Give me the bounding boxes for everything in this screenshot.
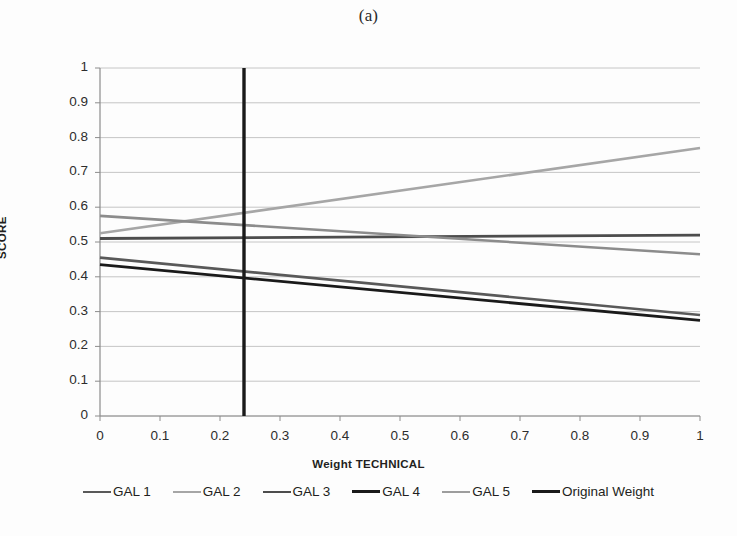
y-axis-title: SCORE bbox=[0, 216, 8, 259]
x-tick-label-0.2: 0.2 bbox=[200, 428, 240, 443]
y-tick-label-0: 0 bbox=[48, 407, 88, 422]
y-tick-label-0.9: 0.9 bbox=[48, 94, 88, 109]
x-tick-label-0.7: 0.7 bbox=[500, 428, 540, 443]
legend-item-gal-2[interactable]: GAL 2 bbox=[173, 484, 241, 499]
y-tick-label-0.6: 0.6 bbox=[48, 198, 88, 213]
y-tick-label-0.7: 0.7 bbox=[48, 163, 88, 178]
y-tick-label-0.3: 0.3 bbox=[48, 303, 88, 318]
legend-swatch-icon bbox=[532, 490, 560, 493]
legend-label: GAL 3 bbox=[293, 484, 331, 499]
line-chart: 00.10.20.30.40.50.60.70.80.91 00.10.20.3… bbox=[0, 44, 737, 484]
x-tick-marks bbox=[100, 416, 700, 421]
legend-item-gal-3[interactable]: GAL 3 bbox=[263, 484, 331, 499]
legend-swatch-icon bbox=[442, 491, 470, 493]
legend-swatch-icon bbox=[263, 491, 291, 493]
y-tick-marks bbox=[95, 68, 100, 416]
gridlines bbox=[100, 68, 700, 416]
y-tick-label-0.5: 0.5 bbox=[48, 233, 88, 248]
series-line-gal-1 bbox=[100, 258, 700, 315]
x-tick-label-0.5: 0.5 bbox=[380, 428, 420, 443]
x-tick-label-0.3: 0.3 bbox=[260, 428, 300, 443]
x-axis-title: Weight TECHNICAL bbox=[0, 458, 737, 470]
legend-label: GAL 5 bbox=[472, 484, 510, 499]
legend-item-gal-4[interactable]: GAL 4 bbox=[352, 484, 420, 499]
figure-caption: (a) bbox=[0, 6, 737, 26]
legend-item-original-weight[interactable]: Original Weight bbox=[532, 484, 654, 499]
x-tick-label-1: 1 bbox=[680, 428, 720, 443]
x-tick-label-0.9: 0.9 bbox=[620, 428, 660, 443]
legend-swatch-icon bbox=[173, 491, 201, 493]
chart-plot-svg bbox=[0, 44, 737, 484]
series-lines bbox=[100, 148, 700, 320]
chart-legend: GAL 1GAL 2GAL 3GAL 4GAL 5Original Weight bbox=[0, 484, 737, 499]
x-tick-label-0.6: 0.6 bbox=[440, 428, 480, 443]
y-tick-label-0.1: 0.1 bbox=[48, 372, 88, 387]
figure-page: (a) 00.10.20.30.40.50.60.70.80.91 00.10.… bbox=[0, 0, 737, 536]
legend-label: GAL 4 bbox=[382, 484, 420, 499]
x-tick-label-0.8: 0.8 bbox=[560, 428, 600, 443]
legend-label: Original Weight bbox=[562, 484, 654, 499]
y-tick-label-0.4: 0.4 bbox=[48, 268, 88, 283]
legend-item-gal-5[interactable]: GAL 5 bbox=[442, 484, 510, 499]
legend-swatch-icon bbox=[352, 490, 380, 493]
legend-swatch-icon bbox=[83, 491, 111, 493]
y-tick-label-0.8: 0.8 bbox=[48, 129, 88, 144]
x-tick-label-0.4: 0.4 bbox=[320, 428, 360, 443]
x-tick-label-0.1: 0.1 bbox=[140, 428, 180, 443]
y-tick-label-0.2: 0.2 bbox=[48, 337, 88, 352]
legend-label: GAL 2 bbox=[203, 484, 241, 499]
y-tick-label-1: 1 bbox=[48, 59, 88, 74]
x-tick-label-0: 0 bbox=[80, 428, 120, 443]
legend-label: GAL 1 bbox=[113, 484, 151, 499]
legend-item-gal-1[interactable]: GAL 1 bbox=[83, 484, 151, 499]
